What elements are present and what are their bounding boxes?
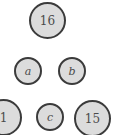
graph-node-label: 16 bbox=[40, 15, 55, 27]
graph-node-label: 15 bbox=[85, 113, 100, 125]
graph-node-1[interactable]: 1 bbox=[0, 99, 22, 135]
graph-node-label: 1 bbox=[0, 112, 7, 124]
graph-node-b[interactable]: b bbox=[58, 57, 86, 85]
graph-node-label: b bbox=[68, 66, 75, 77]
graph-node-15[interactable]: 15 bbox=[74, 100, 111, 135]
graph-node-c[interactable]: c bbox=[36, 103, 64, 131]
graph-node-a[interactable]: a bbox=[14, 57, 42, 85]
diagram-canvas: 16ab1c15 bbox=[0, 0, 114, 135]
graph-node-label: c bbox=[47, 112, 53, 123]
graph-node-16[interactable]: 16 bbox=[29, 2, 66, 39]
graph-node-label: a bbox=[25, 66, 32, 77]
